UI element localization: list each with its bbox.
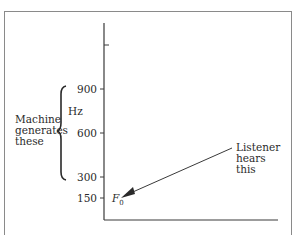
listener-hears-label: Listener hears this: [236, 142, 280, 175]
arrow-line: [126, 148, 232, 195]
brace-label-line-3: these: [15, 136, 68, 147]
tick-label-300: 300: [67, 172, 97, 183]
fundamental-subscript: 0: [119, 199, 123, 207]
fundamental-label: F0: [112, 193, 124, 209]
y-axis-unit-label: Hz: [68, 106, 83, 117]
tick-label-600: 600: [67, 128, 97, 139]
machine-generates-label: Machine generates these: [15, 114, 68, 147]
tick-label-150: 150: [67, 193, 97, 204]
arrow-label-line-3: this: [236, 164, 280, 175]
tick-label-900: 900: [67, 84, 97, 95]
